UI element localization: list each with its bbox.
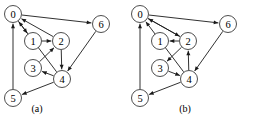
edge-5-to-0 <box>11 24 15 89</box>
node-5[interactable]: 5 <box>132 90 149 107</box>
node-4[interactable]: 4 <box>181 71 198 88</box>
node-label: 4 <box>186 74 192 85</box>
node-1[interactable]: 1 <box>25 33 42 50</box>
arrowhead <box>146 22 150 27</box>
panel-caption-a: (a) <box>31 103 42 115</box>
arrowhead <box>175 72 180 76</box>
arrowhead <box>195 66 199 71</box>
panel-caption-b: (b) <box>179 103 191 115</box>
edge-4-to-3 <box>42 71 54 76</box>
node-label: 0 <box>137 9 142 20</box>
node-2[interactable]: 2 <box>53 33 70 50</box>
node-label: 6 <box>225 19 230 30</box>
edge-0-to-6 <box>149 15 218 24</box>
node-label: 2 <box>58 36 63 47</box>
node-label: 0 <box>10 9 15 20</box>
arrowhead <box>186 51 190 56</box>
node-4[interactable]: 4 <box>54 71 71 88</box>
arrowhead <box>170 39 175 43</box>
node-label: 4 <box>59 74 65 85</box>
edge-5-to-0 <box>138 24 142 89</box>
arrowhead <box>42 71 47 75</box>
node-2[interactable]: 2 <box>180 33 197 50</box>
arrowhead <box>22 91 27 95</box>
node-label: 3 <box>30 63 35 74</box>
arrowhead <box>60 65 64 70</box>
node-3[interactable]: 3 <box>25 60 42 77</box>
figure-root: 0126345(a) 0126345(b) <box>0 0 253 122</box>
edge-3-to-2 <box>39 48 54 62</box>
node-label: 1 <box>157 36 162 47</box>
arrowhead <box>19 22 23 27</box>
graph-panel-a: 0126345(a) <box>0 0 126 122</box>
edge-4-to-5 <box>149 82 181 94</box>
node-6[interactable]: 6 <box>220 16 237 33</box>
node-3[interactable]: 3 <box>152 60 169 77</box>
node-label: 1 <box>30 36 35 47</box>
node-1[interactable]: 1 <box>152 33 169 50</box>
edge-4-to-2 <box>186 51 190 70</box>
graph-panel-b: 0126345(b) <box>127 0 253 122</box>
node-label: 5 <box>10 93 15 104</box>
node-5[interactable]: 5 <box>5 90 22 107</box>
edge-4-to-5 <box>22 82 54 94</box>
edge-3-to-4 <box>168 71 180 76</box>
edge-6-to-4 <box>195 31 223 71</box>
node-label: 3 <box>157 63 162 74</box>
node-label: 6 <box>98 19 103 30</box>
edge-2-to-4 <box>60 50 64 69</box>
node-6[interactable]: 6 <box>93 16 110 33</box>
arrowhead <box>138 24 142 29</box>
node-label: 2 <box>185 36 190 47</box>
edge-0-to-6 <box>22 15 91 24</box>
node-label: 5 <box>137 93 142 104</box>
arrowhead <box>47 39 52 43</box>
arrowhead <box>11 24 15 29</box>
arrowhead <box>68 66 72 71</box>
node-0[interactable]: 0 <box>132 6 149 23</box>
arrowhead <box>149 91 154 95</box>
edge-2-to-1 <box>170 39 179 43</box>
edge-1-to-2 <box>42 39 51 43</box>
node-0[interactable]: 0 <box>5 6 22 23</box>
graph-a-canvas: 0126345(a) <box>0 0 126 122</box>
graph-b-canvas: 0126345(b) <box>127 0 253 122</box>
edge-6-to-4 <box>68 31 96 71</box>
